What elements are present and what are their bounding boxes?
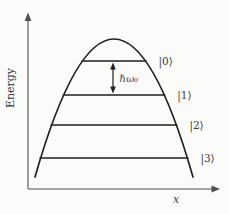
diagram-canvas: Energy x |0⟩ |1⟩ |2⟩ |3⟩ ℏω₀: [0, 0, 229, 214]
level-label-1: |1⟩: [177, 89, 191, 103]
level-label-2: |2⟩: [189, 119, 203, 133]
level-label-3: |3⟩: [200, 152, 214, 166]
y-axis-label: Energy: [4, 67, 17, 108]
level-spacing-arrow: [110, 63, 116, 94]
level-label-0: |0⟩: [159, 55, 173, 69]
y-axis-arrowhead: [25, 13, 32, 22]
axes: Energy x: [4, 13, 220, 207]
x-axis-label: x: [173, 193, 180, 206]
spacing-arrow-head-down: [110, 87, 116, 94]
spacing-label: ℏω₀: [120, 73, 139, 84]
spacing-arrow-head-up: [110, 63, 116, 70]
x-axis-arrowhead: [212, 186, 221, 193]
level-labels: |0⟩ |1⟩ |2⟩ |3⟩: [159, 55, 215, 166]
energy-levels: [40, 61, 189, 158]
figure-energy-diagram: Energy x |0⟩ |1⟩ |2⟩ |3⟩ ℏω₀: [0, 0, 229, 214]
